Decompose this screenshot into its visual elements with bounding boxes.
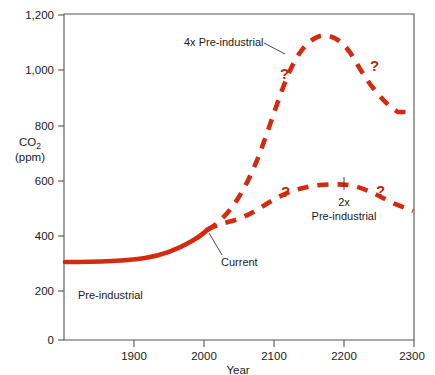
- series-historical-solid: [65, 230, 207, 262]
- y-axis-title: CO2 (ppm): [15, 136, 45, 163]
- svg-text:CO2: CO2: [19, 136, 41, 151]
- y-tick-label-600: 600: [35, 175, 54, 187]
- x-tick-label-2100: 2100: [261, 350, 287, 362]
- four-x-leader-line: [264, 43, 285, 54]
- x-tick-label-2300: 2300: [399, 350, 425, 362]
- series-4x-projection: [207, 36, 413, 230]
- x-tick-label-2200: 2200: [331, 350, 357, 362]
- y-axis-title-subscript: 2: [36, 141, 41, 151]
- y-axis-tick-labels: 0 200 400 600 800 1,000 1,200: [25, 9, 54, 346]
- y-tick-label-1200: 1,200: [25, 9, 54, 21]
- y-tick-label-0: 0: [48, 334, 54, 346]
- uncertainty-mark-upper-left: ?: [280, 65, 289, 82]
- y-tick-label-200: 200: [35, 285, 54, 297]
- current-leader-line: [209, 233, 222, 255]
- annotation-current: Current: [221, 256, 258, 268]
- chart-canvas: 0 200 400 600 800 1,000 1,200 1900 2000 …: [0, 0, 435, 375]
- x-tick-label-1900: 1900: [121, 350, 147, 362]
- y-axis-title-co2: CO: [19, 136, 36, 148]
- y-axis-title-units: (ppm): [15, 151, 45, 163]
- y-tick-label-1000: 1,000: [25, 64, 54, 76]
- x-axis-title: Year: [226, 364, 249, 375]
- y-tick-label-400: 400: [35, 230, 54, 242]
- uncertainty-mark-upper-right: ?: [370, 57, 379, 74]
- annotation-4x-pre-industrial: 4x Pre-industrial: [184, 36, 263, 48]
- x-tick-label-2000: 2000: [191, 350, 217, 362]
- x-axis-ticks: [134, 340, 414, 347]
- uncertainty-mark-lower-left: ?: [281, 183, 290, 200]
- annotation-2x-line2: Pre-industrial: [312, 210, 377, 222]
- x-axis-tick-labels: 1900 2000 2100 2200 2300: [121, 350, 425, 362]
- y-tick-label-800: 800: [35, 120, 54, 132]
- annotation-pre-industrial: Pre-industrial: [78, 289, 143, 301]
- annotation-2x-line1: 2x: [338, 196, 350, 208]
- uncertainty-mark-lower-right: ?: [376, 182, 385, 199]
- co2-projection-figure: 0 200 400 600 800 1,000 1,200 1900 2000 …: [0, 0, 435, 375]
- y-axis-ticks: [58, 15, 64, 340]
